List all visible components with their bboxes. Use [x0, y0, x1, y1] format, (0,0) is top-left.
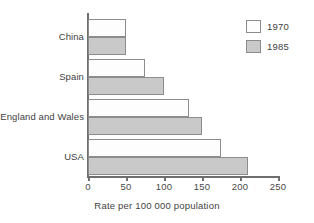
white-swatch-icon — [246, 20, 261, 33]
category-label-china: China — [0, 31, 84, 42]
legend-item-1985: 1985 — [246, 39, 289, 53]
legend-label-1985: 1985 — [267, 41, 289, 52]
bar-usa-1985 — [88, 157, 248, 175]
bar-china-1970 — [88, 19, 126, 37]
legend-label-1970: 1970 — [267, 21, 289, 32]
x-tick-label-50: 50 — [121, 181, 132, 192]
x-axis-title: Rate per 100 000 population — [0, 200, 314, 211]
bar-spain-1970 — [88, 59, 145, 77]
x-tick-label-0: 0 — [85, 181, 90, 192]
legend: 1970 1985 — [246, 19, 289, 59]
x-tick-label-100: 100 — [156, 181, 172, 192]
bar-spain-1985 — [88, 77, 164, 95]
gray-swatch-icon — [246, 40, 261, 53]
x-tick-label-200: 200 — [232, 181, 248, 192]
x-tick-label-150: 150 — [194, 181, 210, 192]
bar-england-and-wales-1970 — [88, 99, 189, 117]
bar-chart: 050100150200250 ChinaSpainEngland and Wa… — [0, 0, 314, 223]
category-label-england-and-wales: England and Wales — [0, 111, 84, 122]
category-label-spain: Spain — [0, 71, 84, 82]
x-tick-label-250: 250 — [270, 181, 286, 192]
bar-china-1985 — [88, 37, 126, 55]
x-axis-line — [87, 176, 279, 178]
bar-usa-1970 — [88, 139, 221, 157]
bar-england-and-wales-1985 — [88, 117, 202, 135]
legend-item-1970: 1970 — [246, 19, 289, 33]
category-label-usa: USA — [0, 151, 84, 162]
